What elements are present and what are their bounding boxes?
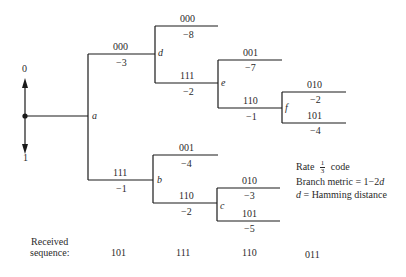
branch-metric: −2 <box>181 207 192 217</box>
received-symbol: 110 <box>242 248 257 258</box>
root-down-label: 1 <box>23 153 28 163</box>
legend-branch-metric-text: Branch metric = 1−2 <box>296 176 379 187</box>
branch-code: 110 <box>243 96 258 106</box>
legend-rate-line: Rate 1 3 code <box>296 160 387 175</box>
received-label-line1: Received <box>30 236 69 247</box>
node-d-label: d <box>158 48 163 58</box>
branch-metric: −2 <box>183 87 194 97</box>
node-b-label: b <box>157 175 162 185</box>
branch-code: 001 <box>243 48 258 58</box>
branch-code: 010 <box>307 80 322 90</box>
legend-hamming-text: = Hamming distance <box>301 189 387 200</box>
branch-code: 101 <box>242 209 257 219</box>
received-sequence-label: Received sequence: <box>30 236 69 258</box>
branch-metric: −5 <box>244 224 255 234</box>
branch-code: 111 <box>180 71 194 81</box>
branch-metric: −4 <box>181 159 192 169</box>
received-symbol: 111 <box>176 248 190 258</box>
branch-metric: −2 <box>310 95 321 105</box>
branch-metric: −1 <box>246 112 257 122</box>
branch-code: 101 <box>307 111 322 121</box>
legend-branch-metric-var: d <box>379 176 384 187</box>
node-c-label: c <box>220 201 224 211</box>
node-e-label: e <box>221 78 225 88</box>
branch-code: 010 <box>242 176 257 186</box>
received-label-line2: sequence: <box>30 247 69 258</box>
legend-rate-suffix: code <box>331 161 350 172</box>
received-symbol: 101 <box>111 248 126 258</box>
received-symbol: 011 <box>305 250 320 260</box>
branch-metric: −3 <box>116 58 127 68</box>
branch-metric: −3 <box>244 191 255 201</box>
branch-code: 001 <box>179 143 194 153</box>
branch-metric: −1 <box>116 184 127 194</box>
branch-metric: −8 <box>183 30 194 40</box>
branch-code: 111 <box>113 168 127 178</box>
root-up-label: 0 <box>22 64 27 74</box>
branch-metric: −7 <box>245 63 256 73</box>
branch-metric: −4 <box>310 126 321 136</box>
node-a-label: a <box>92 111 97 121</box>
sequential-decoding-tree-diagram: 0 1 a d b e f c 000 −3 111 −1 000 −8 111… <box>0 0 406 277</box>
legend-rate-prefix: Rate <box>296 161 314 172</box>
rate-denominator: 3 <box>320 168 326 175</box>
node-f-label: f <box>285 103 288 113</box>
branch-code: 110 <box>179 191 194 201</box>
root-node-dot <box>22 113 27 118</box>
legend-branch-metric-line: Branch metric = 1−2d <box>296 175 387 188</box>
legend: Rate 1 3 code Branch metric = 1−2d d = H… <box>296 160 387 201</box>
arrow-up-icon <box>22 78 28 88</box>
rate-fraction: 1 3 <box>320 160 326 175</box>
legend-hamming-line: d = Hamming distance <box>296 188 387 201</box>
branch-code: 000 <box>180 14 195 24</box>
branch-code: 000 <box>113 42 128 52</box>
